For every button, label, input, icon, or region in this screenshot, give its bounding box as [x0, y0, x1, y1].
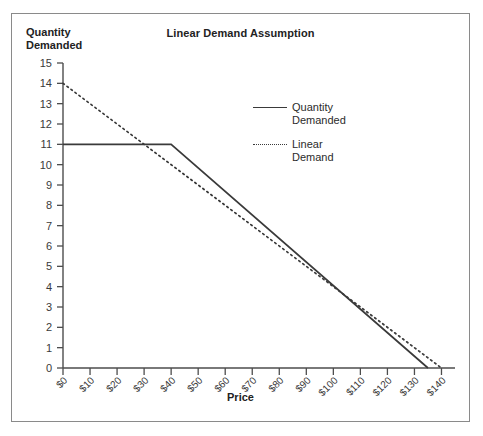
y-tick-label: 10	[40, 159, 52, 171]
y-tick-label: 15	[40, 57, 52, 69]
x-tick-label: $0	[54, 374, 70, 390]
legend-label-line2: Demand	[292, 151, 334, 164]
legend-label-line2: Demanded	[292, 114, 346, 127]
y-axis-ticks: 0123456789101112131415	[40, 57, 63, 374]
legend-label-line1: Linear	[292, 138, 334, 151]
y-tick-label: 13	[40, 98, 52, 110]
legend-label-line1: Quantity	[292, 101, 346, 114]
y-tick-label: 11	[41, 138, 52, 150]
y-tick-label: 2	[46, 321, 52, 333]
chart-legend: Quantity Demanded Linear Demand	[253, 101, 346, 175]
y-tick-label: 4	[46, 281, 52, 293]
y-tick-label: 14	[40, 77, 52, 89]
legend-item-quantity-demanded: Quantity Demanded	[253, 101, 346, 127]
y-tick-label: 6	[46, 240, 52, 252]
y-tick-label: 9	[46, 179, 52, 191]
y-tick-label: 1	[46, 342, 52, 354]
y-tick-label: 5	[46, 260, 52, 272]
y-tick-label: 3	[46, 301, 52, 313]
legend-swatch-solid-line-icon	[253, 101, 287, 114]
y-tick-label: 12	[40, 118, 52, 130]
y-tick-label: 7	[46, 220, 52, 232]
x-axis-title: Price	[12, 391, 469, 403]
legend-label-quantity-demanded: Quantity Demanded	[292, 101, 346, 127]
legend-swatch-dotted-line-icon	[253, 138, 287, 151]
legend-item-linear-demand: Linear Demand	[253, 138, 346, 164]
y-tick-label: 8	[46, 199, 52, 211]
series-line-quantity-demanded	[63, 144, 428, 368]
legend-label-linear-demand: Linear Demand	[292, 138, 334, 164]
y-tick-label: 0	[46, 362, 52, 374]
chart-figure-frame: Quantity Demanded Linear Demand Assumpti…	[11, 13, 470, 422]
plot-area: 0123456789101112131415 $0$10$20$30$40$50…	[12, 14, 469, 421]
